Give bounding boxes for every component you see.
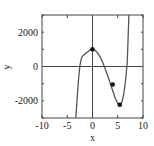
x-tick-label: -5 bbox=[63, 120, 71, 131]
data-point-marker bbox=[110, 82, 115, 87]
x-tick-label: 10 bbox=[138, 120, 148, 131]
x-tick-label: -10 bbox=[35, 120, 48, 131]
y-tick-label: 0 bbox=[33, 61, 38, 72]
chart: -10-50510-200002000 x y bbox=[0, 0, 154, 146]
data-point-marker bbox=[90, 47, 95, 52]
plot-area bbox=[42, 15, 143, 118]
y-axis-label: y bbox=[1, 65, 12, 70]
y-tick-label: -2000 bbox=[15, 95, 38, 106]
data-point-marker bbox=[117, 102, 122, 107]
y-tick-label: 2000 bbox=[18, 27, 38, 38]
x-tick-label: 5 bbox=[115, 120, 120, 131]
x-axis-label: x bbox=[90, 132, 95, 143]
x-tick-label: 0 bbox=[90, 120, 95, 131]
